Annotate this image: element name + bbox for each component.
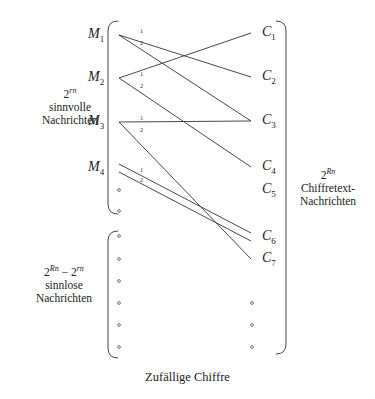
edge-m3-c7-key2 bbox=[119, 122, 251, 259]
placeholder-dot bbox=[251, 324, 254, 327]
ciphertext-node-c7: C7 bbox=[262, 251, 276, 268]
placeholder-dot bbox=[118, 302, 121, 305]
key-label: 2 bbox=[140, 126, 143, 133]
group-label-meaningless: 2Rn − 2rn sinnlose Nachrichten bbox=[18, 264, 110, 305]
placeholder-dot bbox=[118, 258, 121, 261]
key-label: 1 bbox=[140, 27, 143, 34]
key-label: 2 bbox=[140, 176, 143, 183]
edge-m2-c4-key2 bbox=[119, 78, 251, 167]
placeholder-dot bbox=[118, 346, 121, 349]
key-label: 2 bbox=[140, 39, 143, 46]
key-label: 1 bbox=[140, 166, 143, 173]
ciphertext-node-c2: C2 bbox=[262, 69, 276, 86]
ciphertext-node-c4: C4 bbox=[262, 159, 276, 176]
figure-caption: Zufällige Chiffre bbox=[0, 370, 375, 385]
placeholder-dot bbox=[118, 235, 121, 238]
placeholder-dot bbox=[118, 210, 121, 213]
message-node-m2: M2 bbox=[88, 70, 104, 87]
message-node-m4: M4 bbox=[88, 160, 104, 177]
group-label-meaningful: 2rn sinnvolle Nachrichten bbox=[30, 86, 110, 127]
placeholder-dot bbox=[118, 324, 121, 327]
edge-m2-c1-key1 bbox=[119, 33, 251, 78]
placeholder-dots bbox=[118, 189, 254, 349]
placeholder-dot bbox=[118, 189, 121, 192]
placeholder-dot bbox=[251, 302, 254, 305]
edge-m3-c3-key1 bbox=[119, 121, 251, 122]
placeholder-dot bbox=[118, 280, 121, 283]
edges bbox=[119, 33, 251, 259]
edge-m4-c6-key2 bbox=[119, 172, 251, 241]
ciphertext-node-c5: C5 bbox=[262, 182, 276, 199]
ciphertext-node-c1: C1 bbox=[262, 25, 276, 42]
key-label: 2 bbox=[140, 82, 143, 89]
right-brace-ciphertexts bbox=[276, 21, 286, 354]
ciphertext-node-c6: C6 bbox=[262, 229, 276, 246]
edge-m1-c3-key2 bbox=[119, 35, 251, 121]
group-label-ciphertexts: 2Rn Chiffretext- Nachrichten bbox=[292, 167, 364, 208]
message-node-m1: M1 bbox=[88, 27, 104, 44]
ciphertext-node-c3: C3 bbox=[262, 113, 276, 130]
edge-m1-c2-key1 bbox=[119, 35, 251, 77]
key-label: 1 bbox=[140, 70, 143, 77]
edge-m4-c6-key1 bbox=[119, 164, 251, 233]
key-label: 1 bbox=[140, 114, 143, 121]
placeholder-dot bbox=[251, 346, 254, 349]
